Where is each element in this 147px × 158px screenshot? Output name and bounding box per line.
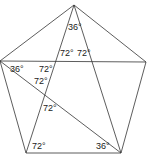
angle-label: 72° bbox=[34, 76, 48, 86]
angle-label: 72° bbox=[32, 141, 46, 151]
diagonal-left-bottom-right bbox=[0, 61, 121, 153]
angle-label: 72° bbox=[60, 48, 74, 58]
angle-label: 36° bbox=[68, 22, 82, 32]
diagonal-left-right bbox=[0, 61, 146, 62]
edge-right-bottom-right bbox=[121, 62, 146, 153]
angle-label: 36° bbox=[96, 141, 110, 151]
angle-label: 72° bbox=[77, 48, 91, 58]
angle-label: 36° bbox=[10, 64, 24, 74]
angle-label: 72° bbox=[39, 64, 53, 74]
edge-bottom-left-left bbox=[0, 61, 26, 153]
pentagon-diagram: 36° 72° 72° 36° 72° 72° 72° 72° 36° bbox=[0, 0, 147, 158]
angle-label: 72° bbox=[43, 103, 57, 113]
